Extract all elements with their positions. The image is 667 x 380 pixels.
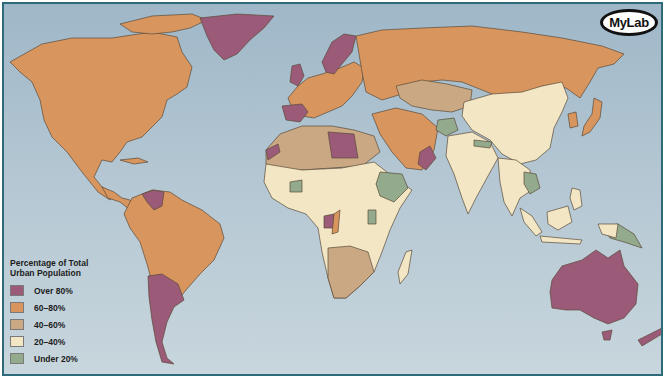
legend-swatch [10,336,24,347]
region-madagascar[interactable] [398,250,412,284]
region-australia[interactable] [550,250,638,324]
region-caribbean[interactable] [120,158,148,164]
region-arctic-islands[interactable] [120,14,207,34]
region-korea[interactable] [568,112,578,128]
legend-swatch [10,319,24,330]
region-tasmania[interactable] [602,330,612,340]
legend-item-60-80: 60–80% [10,299,120,316]
region-indonesia[interactable] [520,206,582,244]
legend-swatch [10,302,24,313]
map-legend: Percentage of Total Urban Population Ove… [10,258,120,367]
legend-title: Percentage of Total Urban Population [10,258,120,278]
legend-label: 40–60% [34,320,65,330]
region-greenland[interactable] [200,14,274,60]
region-north-america[interactable] [10,32,192,200]
legend-item-under-20: Under 20% [10,350,120,367]
legend-label: Under 20% [34,354,78,364]
legend-swatch [10,285,24,296]
region-west-papua[interactable] [598,224,618,238]
region-iberia[interactable] [282,104,308,122]
legend-item-over-80: Over 80% [10,282,120,299]
region-southern-cone[interactable] [148,274,184,364]
legend-item-20-40: 20–40% [10,333,120,350]
region-new-zealand[interactable] [638,328,662,346]
region-afghanistan[interactable] [436,118,458,136]
logo-text: MyLab [609,15,649,30]
region-central-asia[interactable] [396,80,472,112]
region-japan[interactable] [582,98,602,136]
legend-label: 20–40% [34,337,65,347]
region-philippines[interactable] [570,188,582,210]
region-uganda[interactable] [368,210,376,224]
region-southern-africa[interactable] [328,246,374,298]
region-libya[interactable] [328,132,358,158]
region-burkina-faso[interactable] [290,180,302,192]
region-russia[interactable] [356,26,624,100]
legend-item-40-60: 40–60% [10,316,120,333]
mylab-logo[interactable]: MyLab [600,9,658,36]
legend-label: Over 80% [34,286,73,296]
legend-swatch [10,353,24,364]
legend-label: 60–80% [34,303,65,313]
